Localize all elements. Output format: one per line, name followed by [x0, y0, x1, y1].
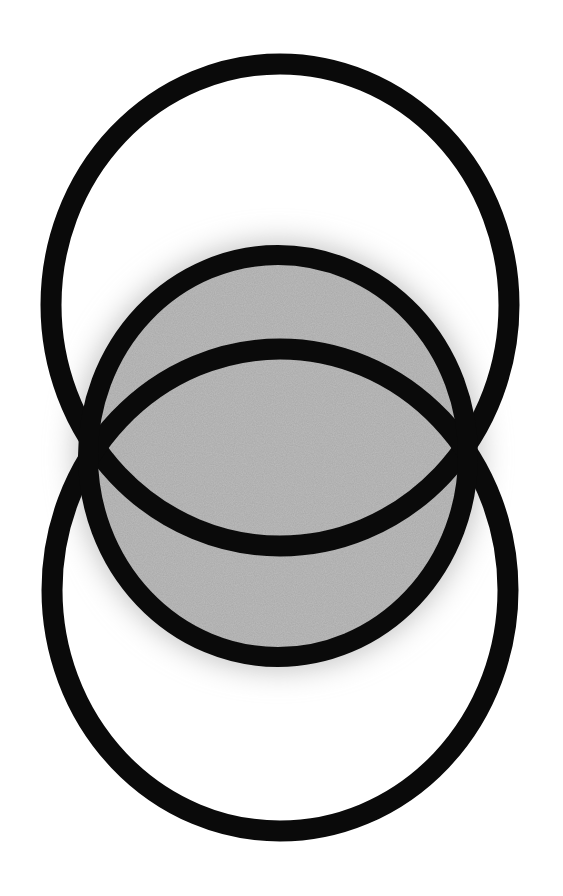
diagram-canvas: Three overlapping rings: upper and lower… [0, 0, 563, 896]
overlapping-circles-diagram [0, 0, 563, 896]
